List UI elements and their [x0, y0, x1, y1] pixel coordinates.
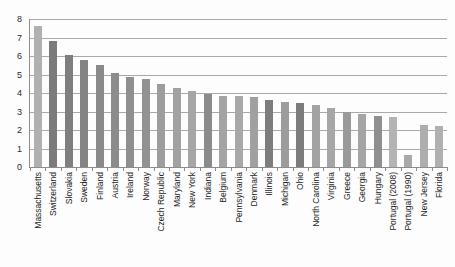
- x-axis-label: New York: [188, 172, 197, 208]
- x-tick: [385, 167, 386, 171]
- x-axis-label: Florida: [435, 172, 444, 198]
- bar[interactable]: [343, 112, 351, 168]
- x-axis-label: Georgia: [358, 172, 367, 202]
- bar[interactable]: [173, 88, 181, 167]
- x-label-slot: Denmark: [247, 172, 261, 267]
- x-tick: [293, 167, 294, 171]
- x-label-slot: Maryland: [170, 172, 184, 267]
- x-label-slot: Czech Republic: [154, 172, 168, 267]
- x-label-slot: Sweden: [77, 172, 91, 267]
- x-tick: [308, 167, 309, 171]
- bar[interactable]: [312, 105, 320, 167]
- x-label-slot: Pennsylvania: [232, 172, 246, 267]
- x-axis-label: Illinois: [265, 172, 274, 196]
- bar[interactable]: [204, 94, 212, 167]
- x-axis-category-labels: MassachusettsSwitzerlandSlovakiaSwedenFi…: [30, 172, 447, 267]
- x-axis-label: Norway: [141, 172, 150, 201]
- bar[interactable]: [111, 73, 119, 167]
- x-label-slot: Georgia: [355, 172, 369, 267]
- x-axis-label: Michigan: [280, 172, 289, 206]
- x-tick: [401, 167, 402, 171]
- x-label-slot: Ireland: [123, 172, 137, 267]
- x-tick: [323, 167, 324, 171]
- x-label-slot: Slovakia: [62, 172, 76, 267]
- bar[interactable]: [34, 26, 42, 167]
- x-axis-label: Indiana: [203, 172, 212, 200]
- bar[interactable]: [49, 41, 57, 167]
- x-axis-label: Massachusetts: [33, 172, 42, 229]
- bar[interactable]: [404, 155, 412, 167]
- bar[interactable]: [235, 96, 243, 167]
- y-tick-label: 3: [17, 107, 22, 116]
- x-tick: [92, 167, 93, 171]
- x-label-slot: Norway: [139, 172, 153, 267]
- x-tick: [262, 167, 263, 171]
- y-tick-label: 4: [17, 89, 22, 98]
- bar[interactable]: [157, 84, 165, 167]
- x-label-slot: Portugal (1990): [401, 172, 415, 267]
- x-axis-label: Portugal (1990): [404, 172, 413, 231]
- bar[interactable]: [265, 100, 273, 167]
- x-axis-label: Ireland: [126, 172, 135, 198]
- x-tick: [45, 167, 46, 171]
- bar[interactable]: [188, 91, 196, 167]
- y-tick-label: 0: [17, 163, 22, 172]
- bar[interactable]: [142, 79, 150, 167]
- bar[interactable]: [80, 60, 88, 167]
- x-axis-label: Hungary: [373, 172, 382, 204]
- x-axis-label: Slovakia: [64, 172, 73, 204]
- x-axis-label: Portugal (2008): [388, 172, 397, 231]
- bar[interactable]: [374, 116, 382, 167]
- x-tick: [107, 167, 108, 171]
- x-label-slot: Switzerland: [46, 172, 60, 267]
- bar[interactable]: [327, 108, 335, 167]
- x-label-slot: Illinois: [262, 172, 276, 267]
- x-axis-label: North Carolina: [311, 172, 320, 227]
- x-label-slot: Austria: [108, 172, 122, 267]
- x-axis-label: New Jersey: [419, 172, 428, 216]
- x-label-slot: Virginia: [324, 172, 338, 267]
- x-tick: [200, 167, 201, 171]
- plot-area: [30, 0, 447, 175]
- x-axis-label: Finland: [95, 172, 104, 200]
- x-tick: [61, 167, 62, 171]
- x-tick: [231, 167, 232, 171]
- x-tick: [169, 167, 170, 171]
- bar[interactable]: [126, 77, 134, 167]
- bar[interactable]: [358, 114, 366, 167]
- x-tick: [138, 167, 139, 171]
- bar[interactable]: [281, 102, 289, 167]
- x-tick: [184, 167, 185, 171]
- bar[interactable]: [296, 103, 304, 167]
- x-label-slot: New Jersey: [417, 172, 431, 267]
- bar[interactable]: [250, 97, 258, 167]
- x-label-slot: Belgium: [216, 172, 230, 267]
- x-axis-label: Greece: [342, 172, 351, 200]
- x-axis-label: Czech Republic: [157, 172, 166, 232]
- bars-series: [30, 0, 447, 175]
- x-tick: [432, 167, 433, 171]
- x-label-slot: Greece: [340, 172, 354, 267]
- bar[interactable]: [219, 96, 227, 167]
- x-label-slot: Finland: [93, 172, 107, 267]
- x-tick: [154, 167, 155, 171]
- bar[interactable]: [435, 126, 443, 167]
- x-label-slot: Florida: [432, 172, 446, 267]
- x-tick: [123, 167, 124, 171]
- x-tick: [370, 167, 371, 171]
- x-axis-label: Belgium: [219, 172, 228, 203]
- x-axis-label: Virginia: [327, 172, 336, 200]
- x-label-slot: New York: [185, 172, 199, 267]
- bar[interactable]: [389, 117, 397, 167]
- bar[interactable]: [65, 55, 73, 167]
- x-tick: [339, 167, 340, 171]
- x-label-slot: Hungary: [371, 172, 385, 267]
- x-axis-label: Pennsylvania: [234, 172, 243, 223]
- bar[interactable]: [96, 65, 104, 167]
- x-tick: [416, 167, 417, 171]
- x-tick: [215, 167, 216, 171]
- bar[interactable]: [420, 125, 428, 167]
- x-axis-label: Austria: [110, 172, 119, 198]
- x-tick: [76, 167, 77, 171]
- x-label-slot: North Carolina: [309, 172, 323, 267]
